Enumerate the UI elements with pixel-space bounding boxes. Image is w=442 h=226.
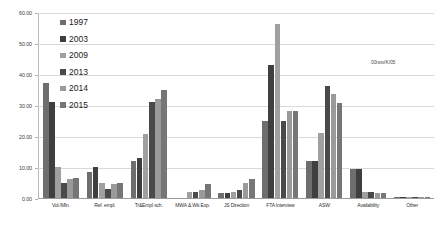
plot-frame xyxy=(38,13,434,199)
y-axis-tick-label: 50.00 xyxy=(0,41,32,47)
bar xyxy=(117,183,123,199)
bar xyxy=(149,102,155,198)
legend-swatch-icon xyxy=(60,102,66,108)
bar xyxy=(368,192,374,198)
legend-label: 2014 xyxy=(69,84,88,93)
bar xyxy=(287,111,293,198)
x-axis-category-label: Other xyxy=(390,202,434,208)
bar xyxy=(306,161,312,198)
bar xyxy=(249,179,255,198)
x-axis-category-label: Ref. empl. xyxy=(83,202,127,208)
bar xyxy=(218,193,224,198)
bar xyxy=(337,103,343,198)
bar xyxy=(268,65,274,198)
legend-swatch-icon xyxy=(60,86,66,92)
bar xyxy=(93,167,99,198)
legend-item[interactable]: 2014 xyxy=(60,80,88,97)
bar xyxy=(49,102,55,198)
bar xyxy=(205,184,211,198)
y-axis-tick xyxy=(35,13,38,14)
bar-group xyxy=(83,13,127,198)
bar xyxy=(111,184,117,198)
legend-item[interactable]: 1997 xyxy=(60,14,88,31)
bar xyxy=(381,193,387,198)
bar xyxy=(406,197,412,198)
legend-label: 2009 xyxy=(69,51,88,60)
bar xyxy=(73,178,79,198)
legend-label: 2013 xyxy=(69,68,88,77)
y-axis-tick xyxy=(35,168,38,169)
bar-group xyxy=(171,13,215,198)
bar xyxy=(281,121,287,199)
bar xyxy=(237,190,243,198)
legend-swatch-icon xyxy=(60,20,66,26)
legend-item[interactable]: 2003 xyxy=(60,31,88,48)
y-axis-tick-label: 60.00 xyxy=(0,10,32,16)
bar xyxy=(55,167,61,198)
bar xyxy=(375,193,381,198)
bars-layer xyxy=(39,13,434,198)
bar xyxy=(275,24,281,198)
bar xyxy=(262,121,268,199)
legend-label: 1997 xyxy=(69,18,88,27)
bar xyxy=(356,169,362,198)
legend-item[interactable]: 2013 xyxy=(60,64,88,81)
bar xyxy=(293,111,299,198)
bar xyxy=(350,169,356,198)
bar xyxy=(131,161,137,198)
y-axis-tick-label: 20.00 xyxy=(0,134,32,140)
x-axis-category-label: Tr&Empl sch. xyxy=(127,202,171,208)
y-axis-tick xyxy=(35,44,38,45)
bar xyxy=(412,197,418,198)
x-axis-category-label: JS Direction xyxy=(215,202,259,208)
bar xyxy=(225,193,231,198)
x-axis-labels: Vol./Mln.Ref. empl.Tr&Empl sch.MWA & Wk … xyxy=(39,202,434,208)
bar-group xyxy=(390,13,434,198)
bar-group xyxy=(302,13,346,198)
bar xyxy=(87,172,93,198)
bar-group xyxy=(346,13,390,198)
bar xyxy=(105,189,111,198)
bar xyxy=(243,183,249,199)
bar xyxy=(187,192,193,198)
bar xyxy=(331,94,337,198)
legend-item[interactable]: 2015 xyxy=(60,97,88,114)
legend-item[interactable]: 2009 xyxy=(60,47,88,64)
bar xyxy=(199,190,205,198)
x-axis-category-label: Vol./Mln. xyxy=(39,202,83,208)
bar xyxy=(425,197,431,198)
bar xyxy=(161,90,167,199)
bar-chart: 0.0010.0020.0030.0040.0050.0060.00 Vol./… xyxy=(0,0,442,226)
legend-swatch-icon xyxy=(60,53,66,59)
bar xyxy=(99,183,105,199)
y-axis-tick xyxy=(35,106,38,107)
y-axis-tick xyxy=(35,75,38,76)
bar xyxy=(155,99,161,198)
legend-label: 2015 xyxy=(69,101,88,110)
legend-swatch-icon xyxy=(60,36,66,42)
bar xyxy=(43,83,49,198)
bar xyxy=(325,86,331,198)
x-axis-category-label: FTA Interview xyxy=(258,202,302,208)
bar xyxy=(137,158,143,198)
bar xyxy=(193,192,199,198)
legend-swatch-icon xyxy=(60,69,66,75)
bar xyxy=(67,179,73,198)
bar xyxy=(231,192,237,198)
y-axis-tick-label: 30.00 xyxy=(0,103,32,109)
y-axis-tick-label: 0.00 xyxy=(0,196,32,202)
y-axis-tick-label: 40.00 xyxy=(0,72,32,78)
y-axis-tick xyxy=(35,199,38,200)
watermark-text: 00nov/K/05 xyxy=(371,59,395,65)
x-axis-category-label: Availability xyxy=(346,202,390,208)
bar xyxy=(394,197,400,198)
bar xyxy=(312,161,318,198)
bar-group xyxy=(215,13,259,198)
bar xyxy=(400,197,406,198)
bar xyxy=(318,133,324,198)
bar-group xyxy=(258,13,302,198)
y-axis-tick-label: 10.00 xyxy=(0,165,32,171)
bar xyxy=(362,192,368,198)
x-axis-category-label: MWA & Wk Exp. xyxy=(171,202,215,208)
legend: 199720032009201320142015 xyxy=(60,14,88,113)
